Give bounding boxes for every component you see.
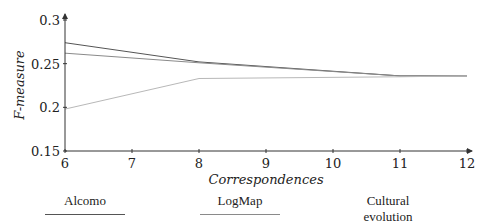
legend-label: LogMap — [200, 193, 280, 214]
plot-lines — [65, 43, 467, 109]
x-tick-label: 8 — [195, 156, 203, 171]
x-tick-label: 7 — [128, 156, 136, 171]
x-axis-title: Correspondences — [208, 172, 323, 187]
y-tick-label: 0.2 — [39, 100, 60, 115]
y-tick-label: 0.15 — [31, 144, 60, 159]
series-line-alcomo — [65, 43, 467, 76]
x-tick-label: 12 — [459, 156, 476, 171]
y-ticks: 0.150.20.250.3 — [31, 13, 67, 159]
legend-line-alcomo — [45, 214, 125, 215]
x-tick-label: 11 — [392, 156, 409, 171]
x-ticks: 6789101112 — [61, 149, 475, 171]
series-line-logmap — [65, 53, 467, 76]
x-tick-label: 6 — [61, 156, 69, 171]
y-tick-label: 0.3 — [39, 13, 60, 28]
series-line-cultural-evolution — [65, 76, 467, 109]
y-tick-label: 0.25 — [31, 57, 60, 72]
line-chart: 6789101112 0.150.20.250.3 Correspondence… — [0, 0, 495, 190]
legend-label: Alcomo — [45, 193, 125, 214]
legend-item-logmap: LogMap — [200, 193, 280, 215]
legend-label: Cultural evolution — [345, 193, 431, 223]
x-tick-label: 10 — [325, 156, 342, 171]
legend-line-logmap — [200, 214, 280, 215]
x-tick-label: 9 — [262, 156, 270, 171]
y-axis-title: F-measure — [12, 50, 27, 121]
legend-item-cultural-evolution: Cultural evolution — [345, 193, 431, 223]
legend-item-alcomo: Alcomo — [45, 193, 125, 215]
